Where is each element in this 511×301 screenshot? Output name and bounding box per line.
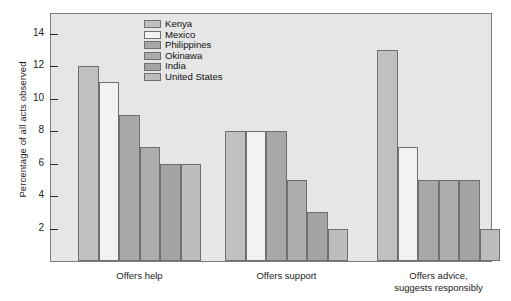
x-axis-label-line: suggests responsibly	[359, 282, 511, 294]
x-axis-label-line: Offers advice,	[359, 270, 511, 282]
x-axis-label-line: Offers support	[207, 270, 367, 282]
legend-swatch-icon	[144, 52, 161, 60]
bar	[225, 131, 246, 261]
bar	[160, 164, 181, 262]
bar	[140, 147, 161, 261]
bar	[307, 212, 328, 261]
x-axis-label: Offers advice,suggests responsibly	[359, 270, 511, 293]
bar	[119, 115, 140, 261]
bar	[78, 66, 99, 261]
legend-swatch-icon	[144, 20, 161, 28]
legend-label: United States	[165, 72, 223, 83]
bar	[99, 82, 120, 261]
bar	[459, 180, 480, 261]
x-axis-label-line: Offers help	[60, 270, 220, 282]
bar	[287, 180, 308, 261]
y-axis-tick-label: 12	[10, 59, 44, 70]
bar	[246, 131, 267, 261]
bar	[266, 131, 287, 261]
bar	[328, 229, 349, 262]
legend-item: United States	[144, 72, 262, 83]
y-axis-tick-label: 2	[10, 222, 44, 233]
legend: KenyaMexicoPhilippinesOkinawaIndiaUnited…	[144, 19, 262, 83]
bar	[377, 50, 398, 261]
legend-item: Philippines	[144, 40, 262, 51]
legend-swatch-icon	[144, 41, 161, 49]
bar	[181, 164, 202, 262]
legend-item: Okinawa	[144, 51, 262, 62]
x-axis-label: Offers help	[60, 270, 220, 282]
legend-swatch-icon	[144, 73, 161, 81]
y-axis-tick-label: 8	[10, 124, 44, 135]
legend-swatch-icon	[144, 31, 161, 39]
bar	[418, 180, 439, 261]
bar	[480, 229, 501, 262]
bars-layer	[51, 14, 491, 261]
legend-swatch-icon	[144, 63, 161, 71]
legend-label: Kenya	[165, 19, 192, 30]
bar	[439, 180, 460, 261]
bar-chart: Percentage of all acts observed 24681012…	[0, 0, 511, 301]
bar	[398, 147, 419, 261]
y-axis-tick-label: 14	[10, 27, 44, 38]
y-axis-tick-label: 4	[10, 189, 44, 200]
x-axis-label: Offers support	[207, 270, 367, 282]
y-axis-tick-label: 6	[10, 157, 44, 168]
y-axis-tick-label: 10	[10, 92, 44, 103]
legend-item: Kenya	[144, 19, 262, 30]
